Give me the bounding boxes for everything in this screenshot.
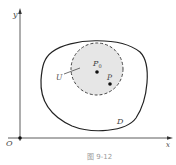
x-axis-arrow-icon bbox=[167, 136, 173, 140]
region-label: D bbox=[116, 117, 124, 126]
point-p0-dot bbox=[95, 70, 99, 74]
point-p-label: P bbox=[106, 73, 113, 82]
figure-caption: 图 9-12 bbox=[87, 153, 112, 161]
y-axis-arrow-icon bbox=[18, 8, 22, 14]
y-axis-label: y bbox=[12, 10, 18, 19]
origin-label: O bbox=[6, 139, 13, 148]
neighborhood-u bbox=[71, 43, 123, 95]
neighborhood-label: U bbox=[56, 73, 63, 82]
x-axis-label: x bbox=[166, 141, 170, 149]
point-p-dot bbox=[108, 82, 112, 86]
origin-dot bbox=[18, 136, 22, 140]
region-diagram: y x O U D P0 P 图 9-12 bbox=[0, 0, 176, 165]
